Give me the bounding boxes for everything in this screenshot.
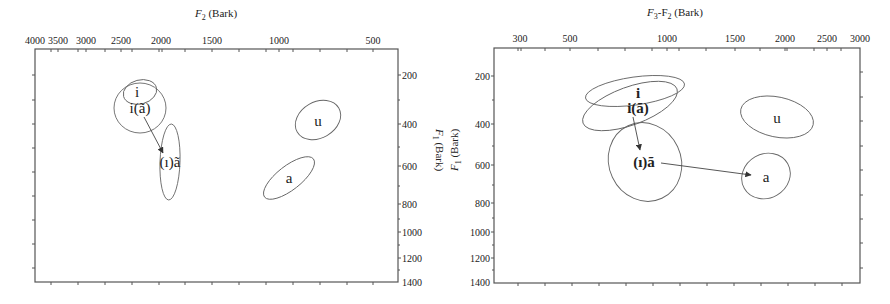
plot-frame (35, 49, 398, 282)
left-plot: F2 (Bark) 4000 3500 3000 2500 2000 1500 … (25, 7, 446, 288)
figure: F2 (Bark) 4000 3500 3000 2500 2000 1500 … (0, 0, 890, 304)
x-axis-title: F2 (Bark) (194, 7, 238, 22)
svg-text:200: 200 (475, 71, 490, 82)
arrow-paren-a-to-a (661, 163, 751, 175)
svg-text:500: 500 (563, 33, 578, 44)
svg-text:600: 600 (475, 160, 490, 171)
svg-text:1500: 1500 (725, 33, 745, 44)
label-u: u (773, 110, 781, 126)
x-axis-title: F3-F2 (Bark) (646, 6, 703, 21)
svg-text:400: 400 (475, 119, 490, 130)
svg-text:400: 400 (402, 119, 417, 130)
arrow-i-a-to-paren-a (144, 117, 163, 153)
svg-text:2500: 2500 (111, 35, 131, 46)
y-tick-labels: 200 400 600 800 1000 1200 1400 (470, 71, 490, 288)
svg-text:2000: 2000 (151, 35, 171, 46)
svg-text:2500: 2500 (817, 33, 837, 44)
label-paren-a: (ı)ã (160, 154, 181, 171)
svg-text:1200: 1200 (402, 253, 422, 264)
svg-text:2000: 2000 (775, 33, 795, 44)
svg-text:1000: 1000 (470, 227, 490, 238)
svg-text:4000: 4000 (25, 35, 45, 46)
svg-text:1000: 1000 (269, 35, 289, 46)
svg-text:800: 800 (475, 198, 490, 209)
svg-text:1000: 1000 (402, 227, 422, 238)
x-tick-labels: 300 500 1000 1500 2000 2500 3000 (513, 33, 871, 44)
svg-text:3000: 3000 (850, 33, 870, 44)
x-tick-labels: 4000 3500 3000 2500 2000 1500 1000 500 (25, 35, 381, 46)
y-tick-labels: 200 400 600 800 1000 1200 1400 (402, 70, 422, 288)
svg-text:200: 200 (402, 70, 417, 81)
label-a: a (286, 170, 293, 186)
right-plot: F3-F2 (Bark) 300 500 1000 1500 2000 2500… (448, 6, 870, 288)
arrow-i-a-to-paren-a (633, 117, 640, 150)
svg-text:3000: 3000 (76, 35, 96, 46)
label-i: i (135, 84, 139, 100)
y-axis-title: F1 (Bark) (431, 128, 446, 172)
svg-text:300: 300 (513, 33, 528, 44)
svg-text:1500: 1500 (202, 35, 222, 46)
label-a: a (763, 169, 770, 185)
label-i: i (636, 85, 640, 101)
svg-text:500: 500 (366, 35, 381, 46)
label-i-a: i(ã) (130, 100, 151, 117)
svg-text:600: 600 (402, 161, 417, 172)
svg-text:1400: 1400 (402, 277, 422, 288)
label-paren-a: (ı)ã (633, 154, 655, 171)
y-axis-title: F1 (Bark) (448, 129, 463, 173)
label-u: u (314, 113, 322, 129)
svg-text:800: 800 (402, 199, 417, 210)
svg-text:1000: 1000 (657, 33, 677, 44)
svg-text:3500: 3500 (48, 35, 68, 46)
label-i-a: i(ã) (627, 100, 649, 117)
svg-text:1200: 1200 (470, 253, 490, 264)
svg-text:1400: 1400 (470, 277, 490, 288)
